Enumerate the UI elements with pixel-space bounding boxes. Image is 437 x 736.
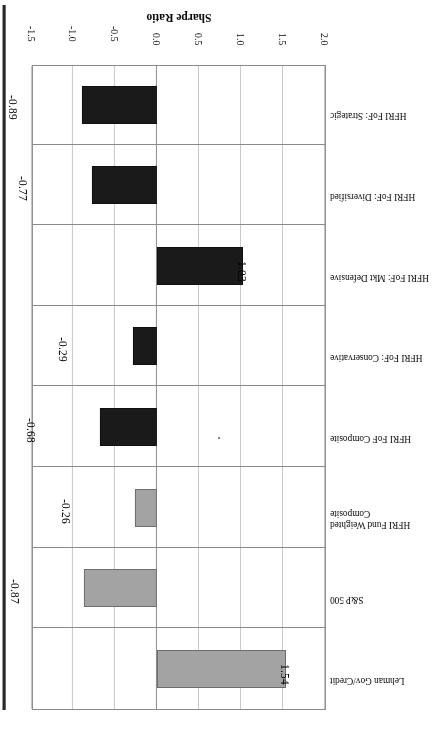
category-separator xyxy=(33,466,325,467)
gridline-0.0 xyxy=(156,66,157,709)
xtick-0.5: 0.5 xyxy=(193,33,204,46)
chart-figure: 1.54 -0.87 -0.26 -0.68 -0.29 1.03 -0.77 … xyxy=(0,0,437,736)
category-separator xyxy=(33,144,325,145)
bar-hfri-fund-weighted-composite xyxy=(135,489,157,527)
value-label-hfri-fof-conservative: -0.29 xyxy=(57,337,69,362)
xtick--1.5: -1.5 xyxy=(26,26,37,42)
gridline-1.0 xyxy=(240,66,241,709)
bar-hfri-fof-diversified xyxy=(92,166,157,204)
xtick-2.0: 2.0 xyxy=(319,33,330,46)
value-label-hfri-fof-composite: -0.68 xyxy=(25,418,37,443)
scan-speck xyxy=(218,437,220,439)
xtick--1.0: -1.0 xyxy=(67,26,78,42)
scan-edge-artifact xyxy=(2,5,6,710)
value-label-hfri-fof-diversified: -0.77 xyxy=(17,176,29,201)
value-label-hfri-fof-mkt-defensive: 1.03 xyxy=(236,261,248,282)
category-separator xyxy=(33,305,325,306)
x-axis-title: Sharpe Ratio xyxy=(32,12,326,24)
category-separator xyxy=(33,547,325,548)
gridline--0.5 xyxy=(114,66,115,709)
value-label-sp-500: -0.87 xyxy=(9,579,21,604)
xtick-0.0: 0.0 xyxy=(151,33,162,46)
category-separator xyxy=(33,627,325,628)
gridline--1.0 xyxy=(72,66,73,709)
category-label-hfri-fof-diversified: HFRI FoF: Diversified xyxy=(330,192,434,203)
sharpe-ratio-bar-chart: 1.54 -0.87 -0.26 -0.68 -0.29 1.03 -0.77 … xyxy=(0,0,437,736)
value-label-hfri-fof-strategic: -0.89 xyxy=(7,95,19,120)
bar-hfri-fof-mkt-defensive xyxy=(157,247,244,285)
category-label-sp-500: S&P 500 xyxy=(330,595,434,606)
category-separator xyxy=(33,386,325,387)
bar-lehman-gov-credit xyxy=(157,650,286,688)
gridline-0.5 xyxy=(198,66,199,709)
category-label-hfri-fof-composite: HFRI FoF Composite xyxy=(330,434,434,445)
gridline--1.5 xyxy=(31,66,32,709)
xtick-1.5: 1.5 xyxy=(277,33,288,46)
gridline-2.0 xyxy=(324,66,325,709)
category-label-hfri-fund-weighted-composite: HFRI Fund Weighted Composite xyxy=(330,509,434,530)
gridline-1.5 xyxy=(282,66,283,709)
category-label-hfri-fof-mkt-defensive: HFRI FoF: Mkt Defensive xyxy=(330,273,434,284)
category-label-hfri-fof-conservative: HFRI FoF: Conservative xyxy=(330,353,434,364)
category-separator xyxy=(33,224,325,225)
plot-area xyxy=(32,65,326,710)
bar-hfri-fof-strategic xyxy=(82,86,157,124)
bar-hfri-fof-conservative xyxy=(133,328,157,366)
category-label-lehman-gov-credit: Lehman Gov/Credit xyxy=(330,676,434,687)
value-label-hfri-fund-weighted-composite: -0.26 xyxy=(60,499,72,524)
category-label-hfri-fof-strategic: HFRI FoF: Strategic xyxy=(330,111,434,122)
xtick-1.0: 1.0 xyxy=(235,33,246,46)
bar-sp-500 xyxy=(84,569,157,607)
bar-hfri-fof-composite xyxy=(100,408,157,446)
value-label-lehman-gov-credit: 1.54 xyxy=(279,664,291,685)
xtick--0.5: -0.5 xyxy=(109,26,120,42)
